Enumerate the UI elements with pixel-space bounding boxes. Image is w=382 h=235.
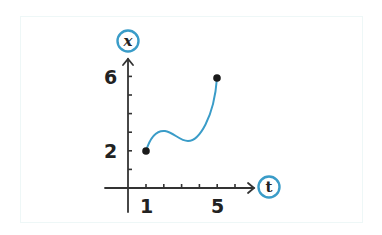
x-tick-label-1: 1 [140,195,153,217]
start-point [142,147,150,155]
y-tick-label-6: 6 [104,66,117,88]
x-axis-label-text: t [266,178,273,196]
end-point [213,74,221,82]
x-axis-label: t [259,177,280,198]
y-tick-label-2: 2 [104,140,117,162]
x-tick-label-5: 5 [211,195,224,217]
chart: 6 2 1 5 x t [0,0,382,235]
y-axis-label: x [118,31,139,52]
axes [105,59,254,212]
y-axis-label-text: x [123,32,134,50]
curve [146,78,217,151]
